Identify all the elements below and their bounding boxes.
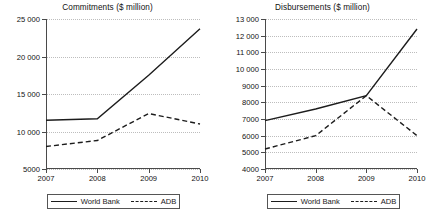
x-axis-tick xyxy=(97,169,98,173)
gridline-y xyxy=(46,169,200,170)
y-axis-label: 25 000 xyxy=(17,15,40,24)
legend-disbursements: World Bank ADB xyxy=(267,194,400,209)
legend-item-adb: ADB xyxy=(351,197,397,206)
legend-item-world-bank: World Bank xyxy=(271,197,340,206)
y-axis-label: 9000 xyxy=(242,81,259,90)
y-axis-label: 6000 xyxy=(242,131,259,140)
x-axis-tick xyxy=(366,169,367,173)
x-axis-label: 2009 xyxy=(140,174,157,183)
legend-label-world-bank: World Bank xyxy=(81,197,120,206)
gridline-y xyxy=(265,169,417,170)
chart-title-commitments: Commitments ($ million) xyxy=(0,3,215,12)
x-axis-label: 2007 xyxy=(38,174,55,183)
y-axis-label: 13 000 xyxy=(236,15,259,24)
plot-canvas-disbursements: 40005000600070008000900010 00011 00012 0… xyxy=(265,19,417,169)
legend-commitments: World Bank ADB xyxy=(47,194,180,209)
x-axis-tick xyxy=(200,169,201,173)
x-axis-label: 2010 xyxy=(409,174,426,183)
legend-swatch-solid-icon xyxy=(51,201,77,202)
x-axis-tick xyxy=(417,169,418,173)
chart-panel-commitments: Commitments ($ million) 500010 00015 000… xyxy=(0,0,215,217)
y-axis-label: 5000 xyxy=(23,165,40,174)
y-axis-label: 5000 xyxy=(242,148,259,157)
x-axis-label: 2008 xyxy=(89,174,106,183)
plot-area-disbursements: 40005000600070008000900010 00011 00012 0… xyxy=(265,19,417,169)
series-layer xyxy=(265,19,417,169)
legend-item-adb: ADB xyxy=(131,197,177,206)
legend-swatch-dashed-icon xyxy=(131,201,157,202)
x-axis-tick xyxy=(149,169,150,173)
plot-area-commitments: 500010 00015 00020 00025 000200720082009… xyxy=(46,19,200,169)
legend-label-adb: ADB xyxy=(381,197,397,206)
series-line-adb xyxy=(46,114,200,147)
legend-swatch-dashed-icon xyxy=(351,201,377,202)
y-axis-label: 7000 xyxy=(242,115,259,124)
y-axis-label: 10 000 xyxy=(236,65,259,74)
y-axis-label: 20 000 xyxy=(17,52,40,61)
x-axis-label: 2007 xyxy=(257,174,274,183)
y-axis-label: 11 000 xyxy=(236,48,259,57)
x-axis-tick xyxy=(316,169,317,173)
series-line-world-bank xyxy=(265,29,417,121)
chart-title-disbursements: Disbursements ($ million) xyxy=(215,3,430,12)
x-axis-label: 2009 xyxy=(358,174,375,183)
series-layer xyxy=(46,19,200,169)
x-axis-tick xyxy=(265,169,266,173)
series-line-world-bank xyxy=(46,29,200,121)
x-axis-tick xyxy=(46,169,47,173)
y-axis-label: 12 000 xyxy=(236,31,259,40)
y-axis-label: 8000 xyxy=(242,98,259,107)
chart-panel-disbursements: Disbursements ($ million) 40005000600070… xyxy=(215,0,430,217)
y-axis-label: 4000 xyxy=(242,165,259,174)
series-line-adb xyxy=(265,96,417,149)
x-axis-label: 2010 xyxy=(192,174,209,183)
chart-sheet: Commitments ($ million) 500010 00015 000… xyxy=(0,0,431,217)
y-axis-label: 10 000 xyxy=(17,127,40,136)
legend-swatch-solid-icon xyxy=(271,201,297,202)
x-axis-label: 2008 xyxy=(307,174,324,183)
plot-canvas-commitments: 500010 00015 00020 00025 000200720082009… xyxy=(46,19,200,169)
legend-label-adb: ADB xyxy=(161,197,177,206)
legend-item-world-bank: World Bank xyxy=(51,197,120,206)
legend-label-world-bank: World Bank xyxy=(301,197,340,206)
y-axis-label: 15 000 xyxy=(17,90,40,99)
